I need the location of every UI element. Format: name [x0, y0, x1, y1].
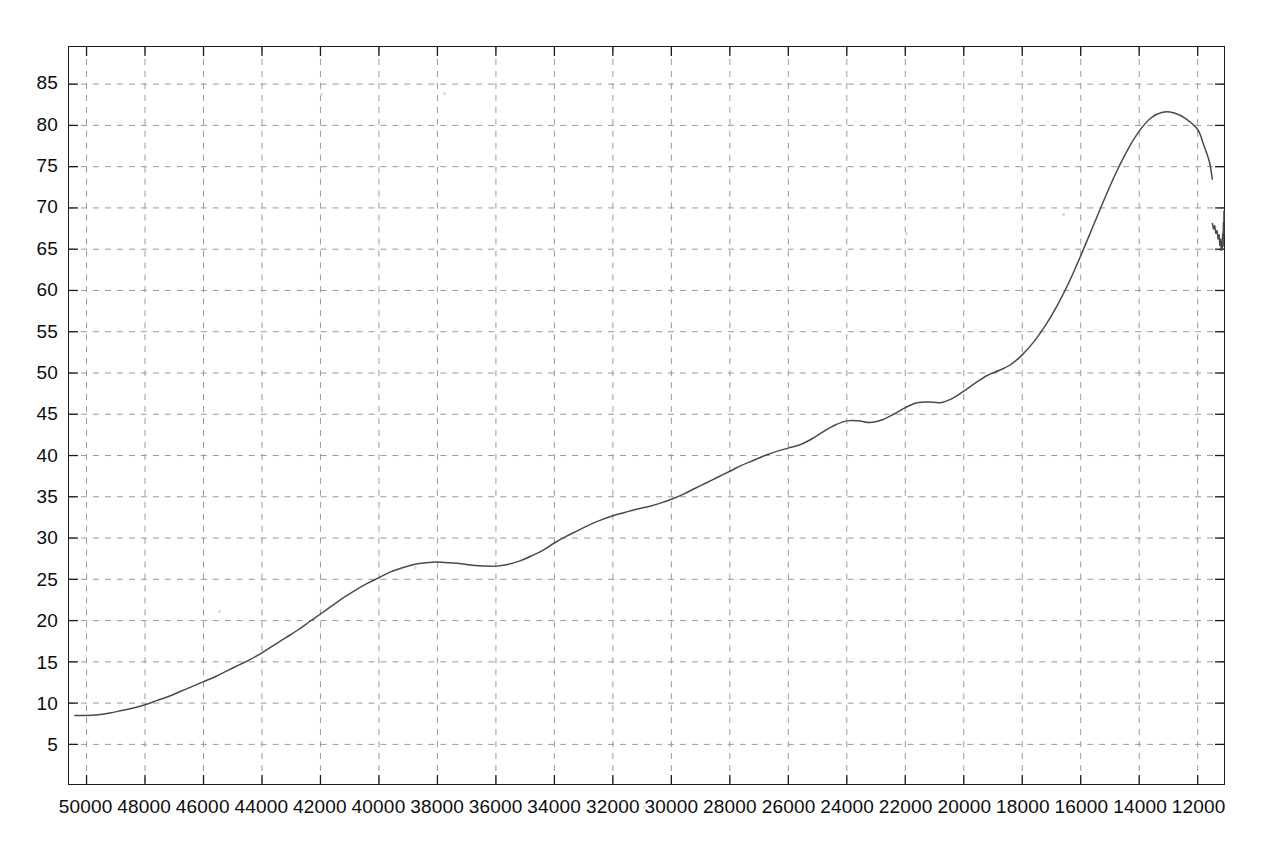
- x-axis-tick-label: 22000: [879, 796, 933, 818]
- y-axis-tick-label: 65: [36, 238, 58, 260]
- x-axis-tick-label: 34000: [527, 796, 581, 818]
- y-axis-tick-label: 50: [36, 362, 58, 384]
- y-axis-tick-label: 80: [36, 114, 58, 136]
- x-axis-tick-label: 36000: [469, 796, 523, 818]
- x-axis-tick-label: 14000: [1113, 796, 1167, 818]
- x-axis-tick-label: 30000: [644, 796, 698, 818]
- x-axis-tick-label: 18000: [996, 796, 1050, 818]
- y-axis-tick-label: 10: [36, 693, 58, 715]
- y-axis-tick-label: 55: [36, 321, 58, 343]
- x-axis-tick-labels: 5000048000460004400042000400003800036000…: [0, 796, 1263, 826]
- y-axis-tick-label: 75: [36, 155, 58, 177]
- x-axis-tick-label: 46000: [176, 796, 230, 818]
- y-axis-tick-label: 30: [36, 527, 58, 549]
- x-axis-tick-label: 50000: [59, 796, 113, 818]
- y-axis-tick-label: 5: [47, 734, 58, 756]
- x-axis-tick-label: 28000: [703, 796, 757, 818]
- x-axis-tick-label: 26000: [762, 796, 816, 818]
- x-axis-tick-label: 32000: [586, 796, 640, 818]
- y-axis-tick-label: 15: [36, 652, 58, 674]
- data-series-curve: [69, 47, 1224, 784]
- y-axis-tick-label: 25: [36, 569, 58, 591]
- y-axis-tick-label: 85: [36, 72, 58, 94]
- x-axis-tick-label: 24000: [820, 796, 874, 818]
- x-axis-tick-label: 48000: [117, 796, 171, 818]
- y-axis-tick-label: 35: [36, 486, 58, 508]
- x-axis-tick-label: 42000: [293, 796, 347, 818]
- x-axis-tick-label: 16000: [1055, 796, 1109, 818]
- x-axis-tick-label: 40000: [352, 796, 406, 818]
- y-axis-tick-label: 45: [36, 403, 58, 425]
- series-line-noise-tail: [1212, 210, 1224, 250]
- plot-area: [68, 46, 1225, 785]
- y-axis-tick-labels: 510152025303540455055606570758085: [0, 0, 58, 855]
- x-axis-tick-label: 12000: [1172, 796, 1226, 818]
- y-axis-tick-label: 60: [36, 279, 58, 301]
- x-axis-tick-label: 20000: [937, 796, 991, 818]
- y-axis-tick-label: 20: [36, 610, 58, 632]
- series-line-body: [75, 112, 1212, 716]
- y-axis-tick-label: 70: [36, 196, 58, 218]
- x-axis-tick-label: 44000: [234, 796, 288, 818]
- x-axis-tick-label: 38000: [410, 796, 464, 818]
- chart-root: 510152025303540455055606570758085 500004…: [0, 0, 1263, 855]
- y-axis-tick-label: 40: [36, 445, 58, 467]
